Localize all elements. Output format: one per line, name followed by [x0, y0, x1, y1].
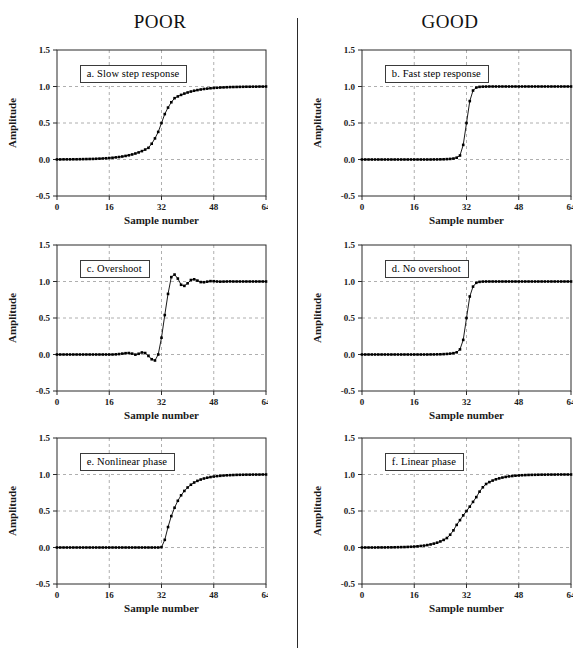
data-point — [173, 97, 176, 100]
data-point — [105, 353, 108, 356]
data-point — [475, 86, 478, 89]
data-point — [419, 353, 422, 356]
x-axis-title: Sample number — [124, 214, 199, 226]
data-point — [245, 85, 248, 88]
data-point — [361, 353, 364, 356]
xtick-label: 16 — [410, 590, 420, 600]
x-axis-title: Sample number — [124, 409, 199, 421]
data-point — [478, 86, 481, 89]
data-point — [446, 158, 449, 161]
data-point — [147, 147, 150, 150]
ytick-label: 0.0 — [39, 350, 51, 360]
data-point — [537, 280, 540, 283]
data-point — [550, 280, 553, 283]
data-point — [235, 474, 238, 477]
data-point — [468, 295, 471, 298]
data-point — [406, 158, 409, 161]
data-point — [147, 546, 150, 549]
data-point — [433, 353, 436, 356]
data-point — [485, 280, 488, 283]
data-point — [429, 353, 432, 356]
data-point — [105, 546, 108, 549]
data-point — [393, 353, 396, 356]
data-point — [557, 473, 560, 476]
data-point — [98, 353, 101, 356]
data-point — [173, 506, 176, 509]
data-point — [482, 486, 485, 489]
data-point — [403, 353, 406, 356]
data-point — [216, 280, 219, 283]
data-point — [524, 85, 527, 88]
panel-label-e: e. Nonlinear phase — [80, 453, 175, 471]
data-point — [491, 280, 494, 283]
data-point — [56, 546, 59, 549]
data-point — [514, 280, 517, 283]
data-point — [206, 280, 209, 283]
data-point — [232, 280, 235, 283]
data-point — [488, 481, 491, 484]
data-point — [128, 546, 131, 549]
ytick-label: 0.5 — [39, 313, 51, 323]
chart-panel-e: -0.50.00.51.01.5016324864Sample numberAm… — [0, 428, 268, 624]
data-point — [79, 546, 82, 549]
data-point — [141, 150, 144, 153]
data-point — [265, 473, 268, 476]
panel-label-b: b. Fast step response — [385, 65, 489, 83]
data-point — [82, 353, 85, 356]
panel-label-a: a. Slow step response — [80, 65, 188, 83]
data-point — [517, 280, 520, 283]
data-point — [478, 281, 481, 284]
data-point — [226, 474, 229, 477]
data-point — [134, 353, 137, 356]
data-point — [550, 473, 553, 476]
data-point — [544, 473, 547, 476]
data-point — [212, 280, 215, 283]
data-point — [85, 546, 88, 549]
data-point — [403, 546, 406, 549]
data-point — [544, 85, 547, 88]
ytick-label: -0.5 — [341, 579, 356, 589]
data-point — [495, 280, 498, 283]
ytick-label: -0.5 — [341, 386, 356, 396]
data-point — [137, 151, 140, 154]
data-point — [416, 353, 419, 356]
data-point — [209, 476, 212, 479]
data-point — [387, 546, 390, 549]
data-point — [560, 280, 563, 283]
data-point — [131, 546, 134, 549]
data-point — [534, 473, 537, 476]
data-point — [534, 280, 537, 283]
data-point — [186, 282, 189, 285]
data-point — [540, 85, 543, 88]
data-point — [371, 546, 374, 549]
data-point — [504, 85, 507, 88]
data-point — [121, 155, 124, 158]
ytick-label: -0.5 — [36, 579, 51, 589]
data-point — [196, 279, 199, 282]
data-point — [261, 280, 264, 283]
ytick-label: 1.0 — [39, 277, 51, 287]
data-point — [157, 353, 160, 356]
data-point — [183, 285, 186, 288]
data-point — [416, 545, 419, 548]
data-point — [485, 85, 488, 88]
data-point — [114, 546, 117, 549]
data-point — [144, 546, 147, 549]
data-point — [446, 537, 449, 540]
data-point — [114, 353, 117, 356]
data-point — [75, 546, 78, 549]
column-heading-good: GOOD — [350, 11, 550, 33]
data-point — [190, 90, 193, 93]
data-point — [163, 539, 166, 542]
data-point — [59, 158, 62, 161]
data-point — [384, 546, 387, 549]
ytick-label: 0.0 — [344, 350, 356, 360]
data-point — [193, 278, 196, 281]
data-point — [92, 353, 95, 356]
data-point — [465, 510, 468, 513]
data-point — [118, 353, 121, 356]
y-axis-title: Amplitude — [6, 293, 18, 343]
data-point — [255, 280, 258, 283]
xtick-label: 48 — [514, 397, 524, 407]
data-point — [410, 545, 413, 548]
